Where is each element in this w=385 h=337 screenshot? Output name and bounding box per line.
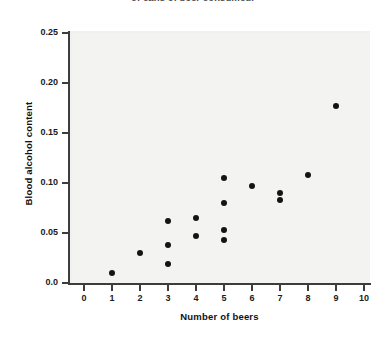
- x-tick-label: 8: [296, 294, 320, 303]
- data-point: [221, 200, 227, 206]
- x-tick-label: 0: [72, 294, 96, 303]
- y-tick-label: 0.25: [18, 28, 58, 37]
- x-tick-label: 4: [184, 294, 208, 303]
- y-tick-mark: [62, 82, 68, 84]
- x-tick-mark: [195, 285, 197, 291]
- x-tick-mark: [223, 285, 225, 291]
- x-tick-label: 6: [240, 294, 264, 303]
- x-tick-label: 7: [268, 294, 292, 303]
- x-axis-line: [68, 283, 371, 285]
- x-tick-label: 2: [128, 294, 152, 303]
- data-point: [277, 190, 283, 196]
- data-point: [193, 233, 199, 239]
- data-point: [165, 218, 171, 224]
- y-tick-mark: [62, 182, 68, 184]
- data-point: [277, 197, 283, 203]
- data-point: [221, 227, 227, 233]
- x-tick-mark: [279, 285, 281, 291]
- data-point: [221, 175, 227, 181]
- x-tick-mark: [139, 285, 141, 291]
- data-point: [109, 270, 115, 276]
- x-tick-label: 9: [324, 294, 348, 303]
- x-tick-mark: [167, 285, 169, 291]
- y-tick-mark: [62, 232, 68, 234]
- y-tick-mark: [62, 32, 68, 34]
- y-axis-label: Blood alcohol content: [23, 64, 34, 244]
- x-tick-label: 3: [156, 294, 180, 303]
- x-tick-mark: [251, 285, 253, 291]
- x-tick-mark: [363, 285, 365, 291]
- data-point: [137, 250, 143, 256]
- data-point: [333, 103, 339, 109]
- data-point: [165, 242, 171, 248]
- x-tick-label: 1: [100, 294, 124, 303]
- data-point: [165, 261, 171, 267]
- x-axis-label: Number of beers: [69, 311, 370, 322]
- x-tick-mark: [83, 285, 85, 291]
- data-point: [193, 215, 199, 221]
- y-tick-label: 0.0: [18, 278, 58, 287]
- x-tick-label: 10: [352, 294, 376, 303]
- plot-area: [69, 31, 370, 284]
- y-tick-mark: [62, 132, 68, 134]
- x-tick-mark: [335, 285, 337, 291]
- x-tick-mark: [307, 285, 309, 291]
- y-tick-mark: [62, 282, 68, 284]
- x-tick-mark: [111, 285, 113, 291]
- data-point: [249, 183, 255, 189]
- y-axis-line: [68, 31, 70, 285]
- x-tick-label: 5: [212, 294, 236, 303]
- scatter-chart: 0.00.050.100.150.200.25 012345678910 Num…: [0, 0, 385, 337]
- data-point: [305, 172, 311, 178]
- data-point: [221, 237, 227, 243]
